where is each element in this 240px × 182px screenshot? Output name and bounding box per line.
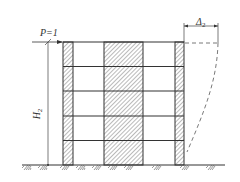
ground-hatch-marks xyxy=(22,165,215,170)
deflection-curve xyxy=(185,43,218,152)
displacement-label: Δ2 xyxy=(196,17,205,29)
load-label: P=1 xyxy=(40,28,58,38)
middle-shear-wall xyxy=(104,42,143,165)
shear-walls xyxy=(63,42,184,165)
ground xyxy=(22,165,225,170)
right-shear-wall xyxy=(175,42,184,165)
height-label: H2 xyxy=(32,109,44,120)
load-arrow xyxy=(32,40,63,44)
height-dimension xyxy=(45,39,51,166)
left-shear-wall xyxy=(63,42,73,165)
